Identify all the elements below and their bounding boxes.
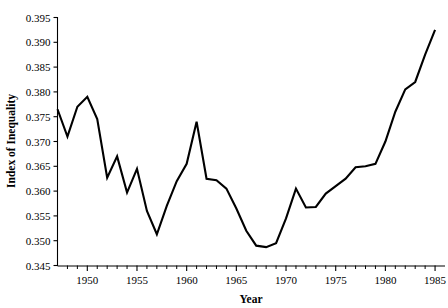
x-axis-title: Year xyxy=(240,293,263,305)
y-axis-title: Index of Inequality xyxy=(5,94,18,188)
line-chart: 0.3450.3500.3550.3600.3650.3700.3750.380… xyxy=(0,0,448,308)
y-tick-label: 0.380 xyxy=(26,86,51,98)
data-series-line xyxy=(58,30,436,247)
x-tick-label: 1960 xyxy=(176,274,199,286)
x-tick-label: 1965 xyxy=(225,274,248,286)
y-tick-label: 0.370 xyxy=(26,136,51,148)
y-tick-label: 0.345 xyxy=(26,260,51,272)
y-tick-label: 0.365 xyxy=(26,160,51,172)
x-axis-tick-labels: 19501955196019651970197519801985 xyxy=(76,274,446,286)
x-tick-label: 1955 xyxy=(126,274,149,286)
x-tick-label: 1970 xyxy=(275,274,298,286)
y-tick-label: 0.375 xyxy=(26,111,51,123)
x-tick-label: 1950 xyxy=(76,274,99,286)
y-tick-label: 0.350 xyxy=(26,235,51,247)
y-tick-label: 0.360 xyxy=(26,185,51,197)
y-tick-label: 0.385 xyxy=(26,61,51,73)
x-tick-label: 1975 xyxy=(325,274,348,286)
x-tick-label: 1985 xyxy=(424,274,447,286)
y-tick-label: 0.390 xyxy=(26,36,51,48)
y-axis-ticks xyxy=(54,18,58,266)
chart-page: 0.3450.3500.3550.3600.3650.3700.3750.380… xyxy=(0,0,448,308)
y-tick-label: 0.395 xyxy=(26,12,51,24)
x-tick-label: 1980 xyxy=(374,274,397,286)
y-tick-label: 0.355 xyxy=(26,210,51,222)
y-axis-tick-labels: 0.3450.3500.3550.3600.3650.3700.3750.380… xyxy=(26,12,51,272)
